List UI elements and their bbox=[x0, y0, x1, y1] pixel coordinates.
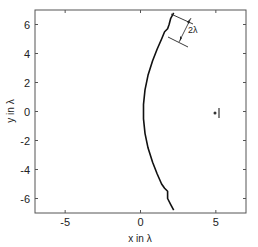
y-tick-label: -2 bbox=[20, 135, 30, 147]
chart: -505 -6-4-20246 2λ x in λ y in λ bbox=[0, 0, 258, 247]
y-tick-label: 0 bbox=[24, 106, 30, 118]
y-tick-label: -4 bbox=[20, 164, 30, 176]
axes-frame bbox=[35, 10, 246, 213]
x-ticks: -505 bbox=[60, 10, 219, 228]
dimension-label: 2λ bbox=[188, 25, 198, 35]
x-axis-label: x in λ bbox=[128, 233, 151, 244]
source-point-marker bbox=[214, 112, 217, 115]
x-tick-label: 5 bbox=[213, 216, 219, 228]
y-tick-label: 4 bbox=[24, 48, 30, 60]
x-tick-label: 0 bbox=[137, 216, 143, 228]
y-tick-label: 6 bbox=[24, 19, 30, 31]
y-tick-label: -6 bbox=[20, 193, 30, 205]
y-axis-label: y in λ bbox=[5, 99, 16, 122]
dimension-tick-top bbox=[171, 14, 193, 24]
dimension-annotation: 2λ bbox=[168, 14, 198, 47]
x-tick-label: -5 bbox=[60, 216, 70, 228]
wavefront-curve bbox=[144, 13, 174, 210]
y-ticks: -6-4-20246 bbox=[20, 19, 246, 205]
dimension-tick-bottom bbox=[168, 37, 188, 47]
y-tick-label: 2 bbox=[24, 77, 30, 89]
